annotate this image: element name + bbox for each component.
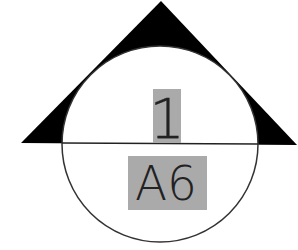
detail-number[interactable]: 1 [149,86,185,151]
sheet-number[interactable]: A6 [135,155,197,211]
section-callout-symbol: 1 A6 [0,0,298,250]
